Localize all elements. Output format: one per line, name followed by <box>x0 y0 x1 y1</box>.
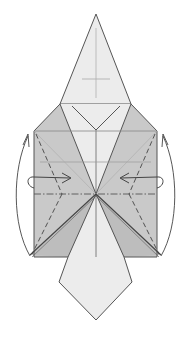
bottom-point-flap <box>59 257 132 320</box>
top-point-flap <box>60 14 131 104</box>
right-fold-arrow <box>161 136 175 256</box>
left-fold-arrow <box>16 136 30 256</box>
origami-diagram <box>0 0 185 339</box>
